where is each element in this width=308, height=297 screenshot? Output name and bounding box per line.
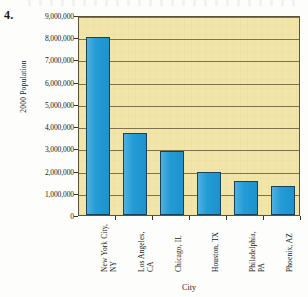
y-axis-tick-label: 5,000,000 <box>45 101 74 110</box>
y-axis-tick-labels: 01,000,0002,000,0003,000,0004,000,0005,0… <box>24 16 74 216</box>
x-axis-tick-label-line: Los Angeles, <box>137 232 146 272</box>
bar-sheen <box>161 152 183 214</box>
y-axis-tick-label: 2,000,000 <box>45 168 74 177</box>
x-axis-tick-label: Los Angeles,CA <box>138 214 155 272</box>
exercise-number: 4. <box>4 8 13 23</box>
y-axis-tick-label: 3,000,000 <box>45 145 74 154</box>
chart-figure: 4. 2000 Population 01,000,0002,000,0003,… <box>0 0 308 297</box>
x-axis-tick-label-line: Philadelphia, <box>248 231 257 272</box>
bar-series <box>79 17 299 215</box>
x-axis-tick-label-line: Chicago, IL <box>174 235 183 272</box>
x-axis-tick-label: Philadelphia,PA <box>249 214 266 272</box>
bar <box>197 172 221 215</box>
bar-sheen <box>272 187 294 214</box>
x-axis-tick-label-line: NY <box>109 214 118 272</box>
x-axis-tick-label: New York City,NY <box>101 214 118 272</box>
bar-sheen <box>87 38 109 214</box>
x-axis-tick-label-line: PA <box>257 214 266 272</box>
y-axis-tick-label: 4,000,000 <box>45 123 74 132</box>
y-axis-tick <box>74 216 78 217</box>
y-axis-tick-label: 6,000,000 <box>45 79 74 88</box>
x-axis-tick <box>300 216 301 220</box>
x-axis-tick-label-line: CA <box>146 214 155 272</box>
x-axis-tick-labels: New York City,NYLos Angeles,CAChicago, I… <box>78 220 300 276</box>
x-axis-tick-label: Phoenix, AZ <box>286 214 295 272</box>
scan-artifact <box>28 0 298 6</box>
x-axis-tick-label-line: New York City, <box>100 224 109 272</box>
x-axis-tick-label-line: Houston, TX <box>211 232 220 272</box>
bar <box>271 186 295 215</box>
bar-sheen <box>198 173 220 214</box>
plot-area <box>78 16 300 216</box>
y-axis-tick-label: 9,000,000 <box>45 12 74 21</box>
bar-sheen <box>124 134 146 214</box>
bar <box>123 133 147 215</box>
bar-sheen <box>235 182 257 214</box>
bar <box>160 151 184 215</box>
x-axis-tick-label: Houston, TX <box>212 214 221 272</box>
y-axis-tick-label: 1,000,000 <box>45 190 74 199</box>
x-axis-tick-label-line: Phoenix, AZ <box>285 233 294 272</box>
bar <box>86 37 110 215</box>
y-axis-tick-label: 8,000,000 <box>45 34 74 43</box>
y-axis-tick-label: 7,000,000 <box>45 56 74 65</box>
x-axis-tick-label: Chicago, IL <box>175 214 184 272</box>
x-axis-title: City <box>78 283 300 292</box>
bar <box>234 181 258 215</box>
